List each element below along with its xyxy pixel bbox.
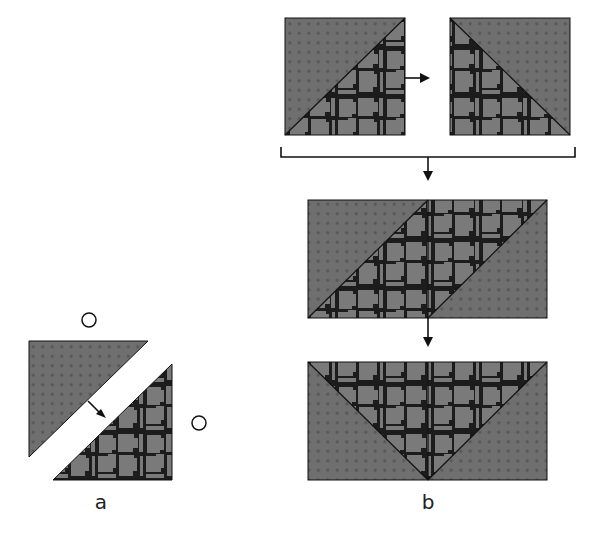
arrow-down-icon — [423, 171, 433, 181]
panel-b-step3 — [308, 362, 547, 480]
panel-b-step1 — [285, 18, 570, 135]
panel-a-label: a — [95, 490, 107, 514]
circle-marker-top — [82, 313, 96, 327]
bracket — [281, 147, 575, 181]
arrow-down-icon — [423, 337, 433, 347]
panel-b-step2 — [308, 200, 547, 318]
arrow-down-2 — [423, 318, 433, 347]
arrow-right-icon — [405, 73, 430, 83]
panel-b-label: b — [422, 490, 435, 514]
circle-marker-right — [192, 416, 206, 430]
diagram-canvas — [0, 0, 605, 538]
panel-a — [29, 313, 206, 480]
arrow-icon — [88, 401, 106, 418]
